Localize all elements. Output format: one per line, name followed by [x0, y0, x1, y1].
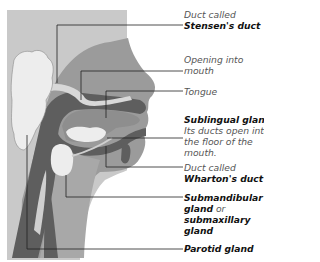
label-tongue: Tongue [184, 86, 217, 97]
label-bold-text: Stensen's duct [184, 20, 260, 31]
label-bold-text: Wharton's duct [184, 173, 263, 184]
label-bold-text: Submandibular [184, 192, 263, 203]
label-bold-text: submaxillary [184, 214, 263, 225]
label-text: Its ducts open into [184, 125, 264, 136]
label-text: or [213, 203, 225, 214]
label-bold-text: gland [184, 203, 213, 214]
label-opening-into-mouth: Opening into mouth [184, 54, 243, 76]
label-whartons-duct: Duct called Wharton's duct [184, 162, 263, 184]
label-text: mouth. [184, 147, 264, 158]
label-submandibular-gland: Submandibular gland or submaxillary glan… [184, 192, 263, 236]
label-text: the floor of the [184, 136, 264, 147]
label-text: Duct called [184, 9, 260, 20]
label-bold-text: gland [184, 225, 263, 236]
label-bold-text: Sublingual gland [184, 114, 264, 125]
label-text: Duct called [184, 162, 263, 173]
submandibular-gland-shape [51, 144, 73, 176]
label-parotid-gland: Parotid gland [184, 243, 254, 254]
label-bold-text: Parotid gland [184, 243, 254, 254]
label-text: mouth [184, 65, 243, 76]
label-stensens-duct: Duct called Stensen's duct [184, 9, 260, 31]
label-text: Opening into [184, 54, 243, 65]
label-text: Tongue [184, 86, 217, 97]
label-sublingual-gland: Sublingual gland. Its ducts open into th… [184, 114, 264, 158]
